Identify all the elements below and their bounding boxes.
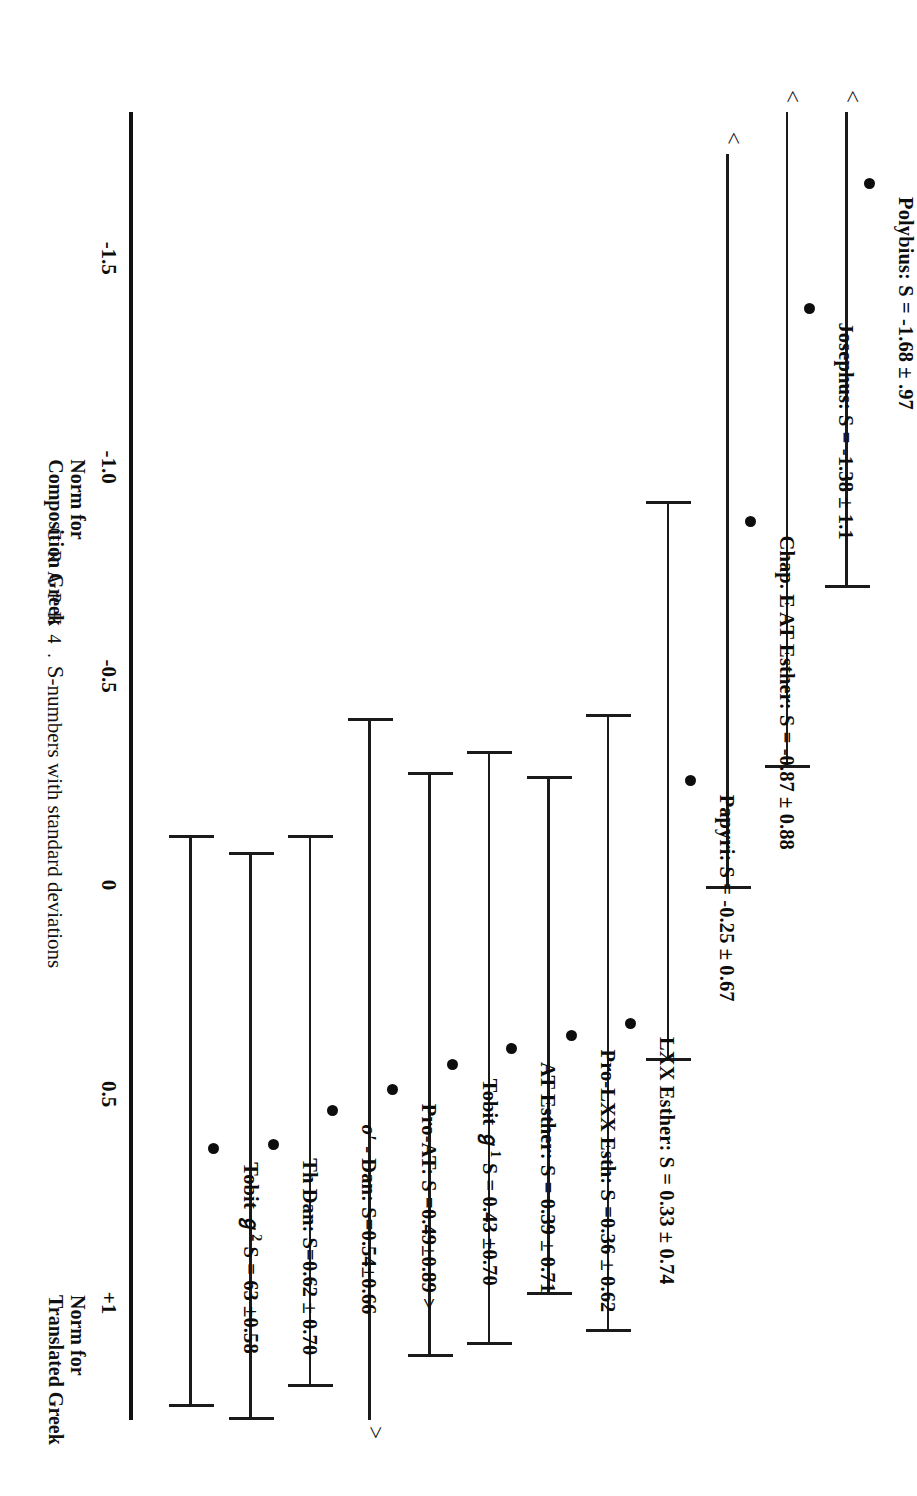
error-bar-line	[667, 501, 670, 1061]
series-label: Tobit ℊ2 S = 63 ±0.58	[238, 1162, 268, 1353]
series-label-superscript: 2	[249, 1234, 264, 1241]
axis-tick-label: -1.5	[96, 242, 121, 275]
mean-value-dot	[685, 775, 696, 786]
error-bar-cap-high	[586, 1329, 631, 1332]
series-label-prefix: Tobit ℊ	[479, 1079, 501, 1151]
caption-rest: -numbers with standard deviations	[43, 678, 67, 968]
axis-labels: -1.5-1.0-0.500.5+1Norm for Composition G…	[788, 0, 908, 1496]
error-bar-cap-high	[169, 1404, 214, 1407]
chart-plot-area: <Polybius: S = -1.68 ± .97<Josephus: S =…	[118, 0, 908, 1496]
axis-tick-label: +1	[96, 1292, 121, 1314]
error-bar-cap-high	[467, 1342, 512, 1345]
error-bar-cap-low	[169, 835, 214, 838]
error-bar-cap-low	[229, 852, 274, 855]
series-label-prefix: Tobit ℊ	[240, 1162, 262, 1234]
error-bar-cap-low	[586, 714, 631, 717]
error-bar-cap-low	[288, 835, 333, 838]
error-bar-cap-low	[646, 501, 691, 504]
axis-tick-label: 0	[96, 880, 121, 891]
axis-tick-label: -0.5	[96, 660, 121, 693]
series-label: Tobit ℊ1 S = 0.43 ±0.70	[477, 1079, 507, 1286]
mean-value-dot	[566, 1030, 577, 1041]
error-bar-cap-high	[408, 1354, 453, 1357]
axis-baseline	[129, 112, 133, 1420]
series-label-suffix: - Dan: S=0.54±0.66	[358, 1141, 380, 1314]
series-label-suffix: S = 63 ±0.58	[240, 1241, 262, 1354]
figure-caption: G R A P H 4 . S-numbers with standard de…	[42, 0, 68, 1496]
offscale-arrow-icon: >	[364, 1426, 387, 1439]
series-label: Papyri: S = -0.25 ± 0.67	[715, 795, 738, 1002]
mean-value-dot	[745, 516, 756, 527]
error-bar-line	[368, 718, 371, 1420]
error-bar-line	[726, 154, 729, 889]
error-bar-cap-low	[348, 718, 393, 721]
offscale-arrow-icon: <	[722, 132, 745, 145]
mean-value-dot	[506, 1043, 517, 1054]
error-bar-cap-low	[467, 751, 512, 754]
series-label: o′ - Dan: S=0.54±0.66	[357, 1125, 380, 1315]
series-label: Pro-AT: S =0.49±0.89 >	[417, 1104, 440, 1310]
mean-value-dot	[327, 1105, 338, 1116]
series-label: Th Dan: S=0.62 ± 0.70	[298, 1158, 321, 1355]
caption-body: S-numbers with standard deviations	[43, 666, 67, 969]
series-label-superscript: 1	[487, 1151, 502, 1158]
mean-value-dot	[268, 1139, 279, 1150]
axis-tick-label: -1.0	[96, 451, 121, 484]
mean-value-dot	[447, 1059, 458, 1070]
series-label: AT Esther: S = 0.39 ± 0.71	[536, 1062, 559, 1293]
caption-head: G R A P H 4 .	[44, 528, 64, 661]
axis-tick-label: 0.5	[96, 1081, 121, 1107]
caption-lead: S	[43, 666, 68, 679]
series-label: LXX Esther: S = 0.33 ± 0.74	[655, 1037, 678, 1285]
series-label-suffix: S = 0.43 ±0.70	[479, 1158, 501, 1286]
mean-value-dot	[625, 1018, 636, 1029]
series-label: Pro-LXX Esth: S =0.36 ± 0.62	[596, 1050, 619, 1313]
error-bar-cap-low	[527, 776, 572, 779]
error-bar-line	[190, 835, 193, 1408]
error-bar-cap-high	[288, 1384, 333, 1387]
series-label-prefix: o′	[358, 1125, 380, 1141]
error-bar-cap-low	[408, 772, 453, 775]
error-bar-cap-high	[229, 1417, 274, 1420]
mean-value-dot	[208, 1143, 219, 1154]
mean-value-dot	[387, 1084, 398, 1095]
